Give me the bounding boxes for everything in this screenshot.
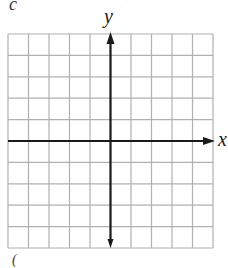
y-axis-arrow-down-icon — [108, 239, 114, 248]
partial-label-bottom: ( — [12, 252, 17, 268]
